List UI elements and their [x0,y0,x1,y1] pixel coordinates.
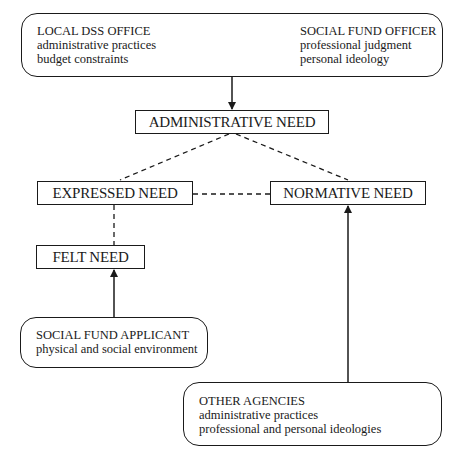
normative-need-label: NORMATIVE NEED [283,185,412,202]
social-fund-applicant-block: SOCIAL FUND APPLICANT physical and socia… [36,328,197,356]
expressed-need-box: EXPRESSED NEED [37,181,193,205]
local-dss-office-block: LOCAL DSS OFFICE administrative practice… [37,24,156,66]
other-agencies-block: OTHER AGENCIES administrative practices … [199,394,381,436]
local-dss-office-title: LOCAL DSS OFFICE [37,24,156,38]
local-dss-office-line: administrative practices [37,38,156,52]
other-agencies-line: professional and personal ideologies [199,422,381,436]
other-agencies-line: administrative practices [199,408,381,422]
social-fund-applicant-line: physical and social environment [36,342,197,356]
social-fund-officer-line: professional judgment [300,38,436,52]
social-fund-officer-title: SOCIAL FUND OFFICER [300,24,436,38]
dashed-admin-expressed [120,134,229,180]
normative-need-box: NORMATIVE NEED [270,181,426,205]
administrative-need-box: ADMINISTRATIVE NEED [135,110,329,134]
other-agencies-title: OTHER AGENCIES [199,394,381,408]
social-fund-applicant-title: SOCIAL FUND APPLICANT [36,328,197,342]
felt-need-box: FELT NEED [36,245,145,269]
administrative-need-label: ADMINISTRATIVE NEED [149,114,316,131]
social-fund-officer-line: personal ideology [300,52,436,66]
local-dss-office-line: budget constraints [37,52,156,66]
felt-need-label: FELT NEED [52,249,128,266]
social-fund-officer-block: SOCIAL FUND OFFICER professional judgmen… [300,24,436,66]
dashed-admin-normative [236,134,348,180]
expressed-need-label: EXPRESSED NEED [52,185,177,202]
